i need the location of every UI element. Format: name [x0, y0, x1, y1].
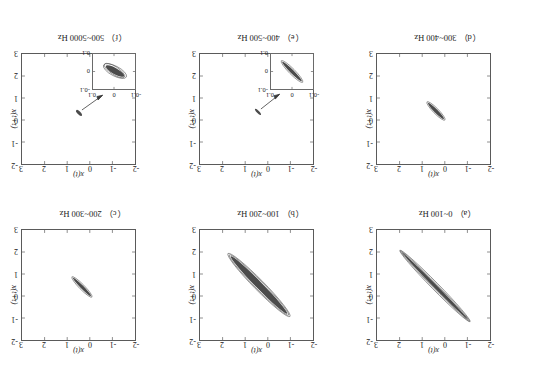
x-axis-ticks: -2 -1 0 1 2 3: [21, 164, 136, 173]
plot-area-b: [199, 229, 314, 341]
y-axis-title: x(t+τ): [10, 109, 19, 128]
x-axis-ticks: -2 -1 0 1 2 3: [21, 340, 136, 349]
inset-plot-f: [93, 54, 135, 89]
attractor-shape-f: [75, 109, 83, 117]
figure-page: x(t) -2 -1 0 1 2 3 -2 -1 0 1 2 3 x(t: [0, 0, 537, 367]
subplot-b: x(t) -2 -1 0 1 2 3 -2 -1 0 1 2 3 x(t: [189, 197, 352, 363]
y-axis-title: x(t+τ): [188, 285, 197, 304]
attractor-shape-a: [397, 248, 472, 324]
attractor-shape-e: [254, 108, 261, 116]
x-axis-ticks: -2 -1 0 1 2 3: [199, 164, 314, 173]
subplot-label-e: （e） 400~500 Hz: [189, 33, 352, 45]
subplot-f: x(t) -2 -1 0 1 2 3 -2 -1 0 1 2 3 x(t: [11, 21, 174, 187]
figure-caption: [37, 3, 497, 15]
attractor-plot-a: [377, 230, 490, 340]
attractor-plot-c: [22, 230, 135, 340]
plot-area-c: [21, 229, 136, 341]
rotated-figure-canvas: x(t) -2 -1 0 1 2 3 -2 -1 0 1 2 3 x(t: [0, 0, 537, 367]
x-axis-ticks: -2 -1 0 1 2 3: [376, 164, 491, 173]
subplot-e: x(t) -2 -1 0 1 2 3 -2 -1 0 1 2 3 x(t: [189, 21, 352, 187]
attractor-plot-d: [377, 54, 490, 164]
subplot-c: x(t) -2 -1 0 1 2 3 -2 -1 0 1 2 3 x(t: [11, 197, 174, 363]
inset-x-ticks-f: -0.1 0 0.1: [92, 91, 136, 99]
y-axis-title: x(t+τ): [10, 285, 19, 304]
y-axis-title: x(t+τ): [188, 109, 197, 128]
subplot-label-d: （d） 300~400 Hz: [366, 33, 529, 45]
y-axis-title: x(t+τ): [365, 109, 374, 128]
subplot-grid: x(t) -2 -1 0 1 2 3 -2 -1 0 1 2 3 x(t: [0, 15, 537, 367]
subplot-label-b: （b） 100~200 Hz: [189, 209, 352, 221]
zoom-inset-e: [270, 53, 314, 90]
y-axis-title: x(t+τ): [365, 285, 374, 304]
subplot-label-f: （f） 500~5000 Hz: [11, 33, 174, 45]
plot-area-d: [376, 53, 491, 165]
plot-area-a: [376, 229, 491, 341]
attractor-plot-b: [200, 230, 313, 340]
subplot-label-a: （a） 0~100 Hz: [366, 209, 529, 221]
attractor-shape-c: [70, 275, 94, 299]
x-axis-ticks: -2 -1 0 1 2 3: [199, 340, 314, 349]
inset-y-ticks-e: -0.1 0 0.1: [252, 53, 268, 90]
attractor-shape-b: [224, 250, 293, 320]
zoom-inset-f: [92, 53, 136, 90]
inset-x-ticks-e: -0.1 0 0.1: [270, 91, 314, 99]
subplot-a: x(t) -2 -1 0 1 2 3 -2 -1 0 1 2 3 x(t: [366, 197, 529, 363]
subplot-label-c: （c） 200~300 Hz: [11, 209, 174, 221]
subplot-d: x(t) -2 -1 0 1 2 3 -2 -1 0 1 2 3 x(t: [366, 21, 529, 187]
inset-y-ticks-f: -0.1 0 0.1: [74, 53, 90, 90]
inset-plot-e: [271, 54, 313, 89]
attractor-shape-d: [425, 100, 447, 122]
x-axis-ticks: -2 -1 0 1 2 3: [376, 340, 491, 349]
